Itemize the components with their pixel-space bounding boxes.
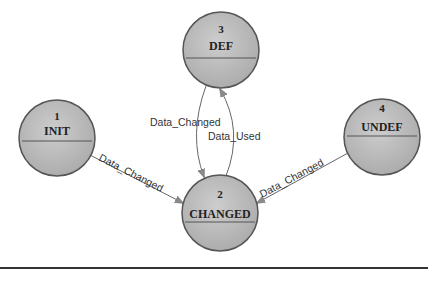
edge-label: Data_Changed: [150, 116, 221, 128]
edge-changed-def: Data_Used: [208, 89, 261, 176]
node-number: 1: [54, 110, 60, 122]
node-label: CHANGED: [189, 207, 251, 221]
edge-label: Data_Changed: [97, 151, 166, 194]
edge-undef-changed: Data_Changed: [257, 153, 348, 203]
edge-init-changed: Data_Changed: [90, 151, 183, 203]
state-diagram: Data_Changed Data_Changed Data_Used Data…: [0, 0, 428, 281]
node-label: DEF: [209, 39, 233, 53]
node-number: 2: [217, 188, 223, 200]
node-number: 4: [379, 102, 385, 114]
node-undef[interactable]: 4 UNDEF: [344, 99, 420, 175]
node-label: INIT: [44, 124, 70, 138]
node-label: UNDEF: [361, 120, 402, 134]
edge-label: Data_Changed: [257, 156, 325, 200]
node-def[interactable]: 3 DEF: [183, 12, 259, 88]
edge-label: Data_Used: [208, 130, 261, 142]
node-init[interactable]: 1 INIT: [19, 100, 95, 176]
node-changed[interactable]: 2 CHANGED: [182, 175, 258, 251]
node-number: 3: [218, 23, 224, 35]
